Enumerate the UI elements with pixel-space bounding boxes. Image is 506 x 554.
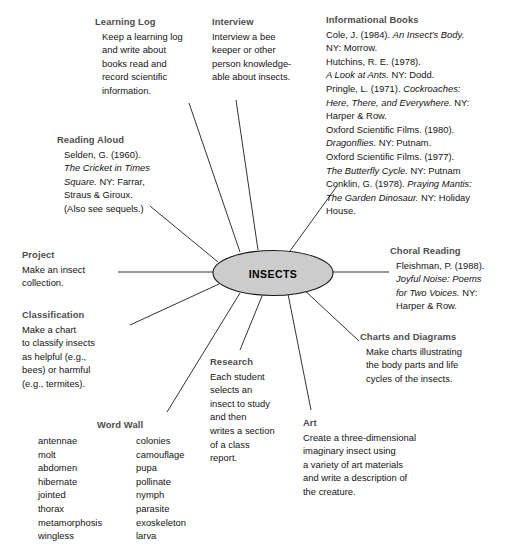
node-body: Create a three-dimensional imaginary ins… <box>303 431 428 499</box>
node-body: Interview a bee keeper or other person k… <box>212 30 312 84</box>
word-wall-column-right: coloniescamouflagepupapollinatenymphpara… <box>136 434 186 543</box>
citation-title: Praying Mantis: <box>407 178 472 189</box>
word-wall-column-left: antennaemoltabdomenhibernatejointedthora… <box>38 434 136 543</box>
citation-line: Cole, J. (1984). An Insect's Body. <box>326 28 504 42</box>
citation-line: Square. NY: Farrar, <box>64 175 175 189</box>
citation-title: An Insect's Body. <box>393 29 464 40</box>
citation-title: The Butterfly Cycle. <box>326 165 408 176</box>
center-ellipse <box>213 251 333 296</box>
word-wall-term: parasite <box>136 502 186 516</box>
citation-line: The Butterfly Cycle. NY: Putnam <box>326 164 504 178</box>
citation-title: Square. <box>64 176 97 187</box>
citation-title: Dragonflies. <box>326 137 376 148</box>
node-classification: Classification Make a chart to classify … <box>22 308 126 391</box>
spoke-charts <box>302 288 359 341</box>
citation-line: Harper & Row. <box>326 109 504 123</box>
word-wall-term: metamorphosis <box>38 516 136 530</box>
citation-line: for Two Voices. NY: <box>396 286 502 300</box>
word-wall-term: molt <box>38 448 136 462</box>
node-art: Art Create a three-dimensional imaginary… <box>303 416 428 499</box>
node-heading: Project <box>22 248 118 262</box>
citation-line: A Look at Ants. NY: Dodd. <box>326 68 504 82</box>
node-citation-list: Cole, J. (1984). An Insect's Body.NY: Mo… <box>326 28 504 218</box>
word-wall-term: hibernate <box>38 475 136 489</box>
node-heading: Research <box>210 355 284 369</box>
citation-line: The Garden Dinosaur. NY: Holiday <box>326 191 504 205</box>
word-wall-term: antennae <box>38 434 136 448</box>
citation-title: The Garden Dinosaur. <box>326 192 418 203</box>
citation-line: NY: Morrow. <box>326 41 504 55</box>
citation-line: Dragonflies. NY: Putnam. <box>326 136 504 150</box>
node-body: Make charts illustrating the body parts … <box>360 345 496 386</box>
citation-title: A Look at Ants. <box>326 69 389 80</box>
word-wall-term: colonies <box>136 434 186 448</box>
citation-title: The Cricket in Times <box>64 162 150 173</box>
citation-line: Here, There, and Everywhere. NY: <box>326 96 504 110</box>
word-wall-term: thorax <box>38 502 136 516</box>
node-heading: Charts and Diagrams <box>360 330 496 344</box>
citation-title: Here, There, and Everywhere. <box>326 97 452 108</box>
node-learning-log: Learning Log Keep a learning log and wri… <box>95 15 203 98</box>
node-reading-aloud: Reading Aloud Selden, G. (1960).The Cric… <box>57 133 175 216</box>
node-word-wall: Word Wall <box>85 418 155 433</box>
node-heading: Art <box>303 416 428 430</box>
spoke-learning-log <box>189 103 240 252</box>
spoke-research <box>240 296 262 350</box>
node-citation-list: Fleishman, P. (1988).Joyful Noise: Poems… <box>390 259 502 313</box>
node-citation-list: Selden, G. (1960).The Cricket in TimesSq… <box>57 148 175 216</box>
node-heading: Reading Aloud <box>57 133 175 147</box>
word-wall-term: nymph <box>136 488 186 502</box>
node-heading: Learning Log <box>95 15 203 29</box>
node-body: Make an insect collection. <box>22 263 118 290</box>
citation-line: Conklin, G. (1978). Praying Mantis: <box>326 177 504 191</box>
node-body: Keep a learning log and write about book… <box>95 30 203 98</box>
word-wall-columns: antennaemoltabdomenhibernatejointedthora… <box>38 434 233 543</box>
node-charts-and-diagrams: Charts and Diagrams Make charts illustra… <box>360 330 496 385</box>
citation-line: Oxford Scientific Films. (1980). <box>326 123 504 137</box>
word-wall-term: jointed <box>38 488 136 502</box>
citation-title: Joyful Noise: Poems <box>396 273 481 284</box>
node-heading: Informational Books <box>326 13 504 27</box>
citation-line: Straus & Giroux. <box>64 188 175 202</box>
node-project: Project Make an insect collection. <box>22 248 118 290</box>
citation-line: Fleishman, P. (1988). <box>396 259 502 273</box>
node-interview: Interview Interview a bee keeper or othe… <box>212 15 312 84</box>
node-heading: Classification <box>22 308 126 322</box>
word-wall-term: larva <box>136 529 186 543</box>
word-wall-term: camouflage <box>136 448 186 462</box>
citation-line: Joyful Noise: Poems <box>396 272 502 286</box>
citation-line: Oxford Scientific Films. (1977). <box>326 150 504 164</box>
node-body: Make a chart to classify insects as help… <box>22 323 126 391</box>
spoke-classification <box>130 284 219 325</box>
node-informational-books: Informational Books Cole, J. (1984). An … <box>326 13 504 218</box>
citation-line: Pringle, L. (1971). Cockroaches: <box>326 82 504 96</box>
citation-line: House. <box>326 204 504 218</box>
word-wall-term: pupa <box>136 461 186 475</box>
citation-title: Cockroaches: <box>403 83 460 94</box>
word-wall-term: wingless <box>38 529 136 543</box>
node-heading: Interview <box>212 15 312 29</box>
citation-line: The Cricket in Times <box>64 161 175 175</box>
citation-line: (Also see sequels.) <box>64 202 175 216</box>
word-wall-term: exoskeleton <box>136 516 186 530</box>
node-heading: Word Wall <box>85 418 155 432</box>
word-wall-term: abdomen <box>38 461 136 475</box>
citation-line: Harper & Row. <box>396 299 502 313</box>
node-choral-reading: Choral Reading Fleishman, P. (1988).Joyf… <box>390 244 502 313</box>
citation-line: Selden, G. (1960). <box>64 148 175 162</box>
word-wall-term: pollinate <box>136 475 186 489</box>
citation-title: for Two Voices. <box>396 287 460 298</box>
citation-line: Hutchins, R. E. (1978). <box>326 55 504 69</box>
spoke-interview <box>236 100 258 250</box>
spoke-art <box>288 294 311 410</box>
node-heading: Choral Reading <box>390 244 502 258</box>
